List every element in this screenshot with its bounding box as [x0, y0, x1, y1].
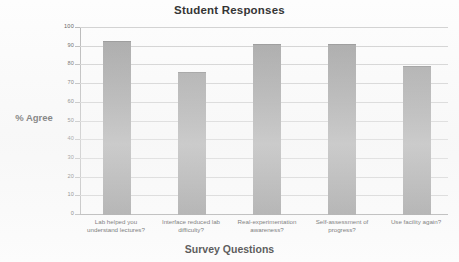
- bar-chart-figure: Student Responses % Agree 100 90 80 70 6…: [0, 0, 459, 262]
- x-category-line2: difficulty?: [152, 226, 230, 234]
- bar-self-assessment: [328, 44, 356, 215]
- x-axis-title: Survey Questions: [0, 243, 459, 255]
- plot-area: [80, 27, 448, 214]
- y-tick-label: 40: [52, 135, 74, 141]
- x-category-label-4: Use facility again?: [378, 218, 454, 226]
- gridline-100: [80, 27, 448, 28]
- x-category-label-3: Self-assessment of progress?: [304, 218, 380, 235]
- bar-use-facility-again: [403, 66, 431, 215]
- y-tick-label: 80: [52, 60, 74, 66]
- y-tick-label: 50: [52, 117, 74, 123]
- y-tick-label: 20: [52, 173, 74, 179]
- x-category-label-0: Lab helped you understand lectures?: [78, 218, 154, 235]
- y-tick-label: 0: [52, 210, 74, 216]
- x-category-line2: progress?: [304, 226, 380, 234]
- bar-interface-reduced-difficulty: [178, 72, 206, 215]
- x-category-line2: awareness?: [228, 226, 306, 234]
- y-tick-label: 30: [52, 154, 74, 160]
- y-tick-label: 60: [52, 98, 74, 104]
- x-category-label-2: Real-experimentation awareness?: [228, 218, 306, 235]
- x-category-line1: Real-experimentation: [228, 218, 306, 226]
- chart-title: Student Responses: [0, 4, 459, 16]
- x-category-line1: Self-assessment of: [304, 218, 380, 226]
- x-category-line1: Lab helped you: [78, 218, 154, 226]
- x-category-line1: Use facility again?: [378, 218, 454, 226]
- bar-lab-helped-lectures: [103, 41, 131, 215]
- x-category-line2: understand lectures?: [78, 226, 154, 234]
- x-category-line1: Interface reduced lab: [152, 218, 230, 226]
- y-tick-label: 100: [52, 23, 74, 29]
- y-tick-label: 10: [52, 191, 74, 197]
- y-tick-label: 70: [52, 79, 74, 85]
- y-tick-label: 90: [52, 42, 74, 48]
- x-category-label-1: Interface reduced lab difficulty?: [152, 218, 230, 235]
- bar-real-experimentation: [253, 44, 281, 215]
